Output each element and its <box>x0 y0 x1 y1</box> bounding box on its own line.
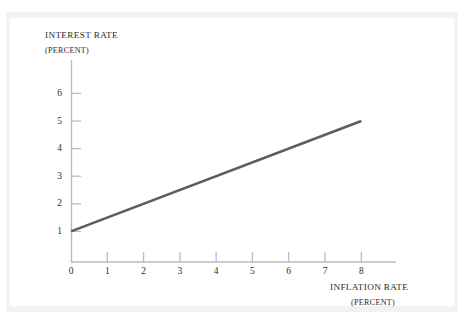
x-tick-label: 8 <box>353 266 369 276</box>
x-tick-label: 6 <box>281 266 297 276</box>
figure-page: INTEREST RATE (PERCENT) INFLATION RATE (… <box>0 0 470 324</box>
y-tick-label: 6 <box>48 88 62 98</box>
y-axis-units: (PERCENT) <box>45 44 89 57</box>
x-tick-label: 7 <box>317 266 333 276</box>
y-tick-marks <box>72 93 82 231</box>
x-tick-label: 1 <box>99 266 115 276</box>
x-tick-label: 4 <box>208 266 224 276</box>
x-tick-label: 0 <box>63 266 79 276</box>
x-tick-label: 3 <box>172 266 188 276</box>
x-tick-marks <box>107 252 361 262</box>
x-tick-label: 2 <box>136 266 152 276</box>
x-axis-title: INFLATION RATE <box>330 281 408 294</box>
y-tick-label: 2 <box>48 198 62 208</box>
x-tick-label: 5 <box>244 266 260 276</box>
y-axis-title: INTEREST RATE <box>45 29 118 42</box>
data-line-interest-vs-inflation <box>71 121 361 231</box>
y-tick-label: 4 <box>48 143 62 153</box>
y-tick-label: 1 <box>48 226 62 236</box>
y-tick-label: 3 <box>48 171 62 181</box>
y-tick-label: 5 <box>48 116 62 126</box>
x-axis-units: (PERCENT) <box>351 296 395 309</box>
